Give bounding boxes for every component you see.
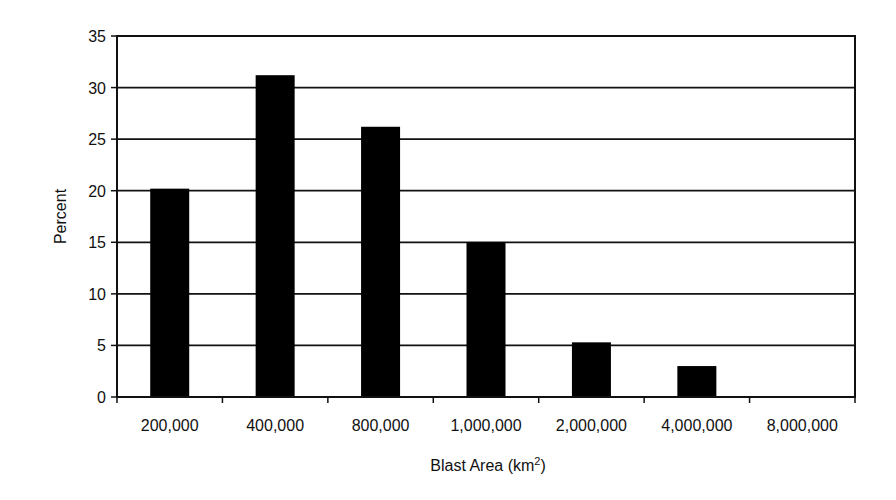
x-axis-title: Blast Area (km2) (430, 455, 545, 474)
x-axis-title-base: Blast Area (km (430, 457, 534, 474)
bar (256, 75, 295, 397)
x-tick-label: 8,000,000 (767, 417, 838, 434)
x-tick-label: 800,000 (352, 417, 410, 434)
x-tick-label: 200,000 (141, 417, 199, 434)
y-tick-label: 30 (88, 80, 106, 97)
bars (150, 75, 716, 397)
y-axis-title: Percent (52, 188, 69, 244)
bar (150, 189, 189, 397)
x-axis: 200,000400,000800,0001,000,0002,000,0004… (117, 397, 855, 434)
y-tick-label: 35 (88, 28, 106, 45)
bar (572, 342, 611, 397)
bar-chart: 05101520253035 200,000400,000800,0001,00… (0, 0, 896, 500)
x-tick-label: 2,000,000 (556, 417, 627, 434)
x-axis-title-close: ) (540, 457, 545, 474)
y-axis: 05101520253035 (88, 28, 117, 406)
y-tick-label: 0 (97, 389, 106, 406)
bar (467, 242, 506, 397)
x-tick-label: 4,000,000 (661, 417, 732, 434)
y-tick-label: 15 (88, 234, 106, 251)
x-tick-label: 400,000 (246, 417, 304, 434)
y-tick-label: 20 (88, 183, 106, 200)
bar (361, 127, 400, 397)
bar (677, 366, 716, 397)
y-tick-label: 5 (97, 337, 106, 354)
y-tick-label: 25 (88, 131, 106, 148)
y-tick-label: 10 (88, 286, 106, 303)
x-tick-label: 1,000,000 (450, 417, 521, 434)
